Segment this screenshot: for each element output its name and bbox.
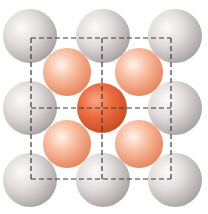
grey-atom [148,9,202,63]
grey-atom [148,153,202,207]
grey-atom [76,9,130,63]
grey-atom [3,9,57,63]
grey-atom [76,153,130,207]
light-orange-atom [43,120,91,168]
light-orange-atom [115,120,163,168]
grey-atom [148,81,202,135]
light-orange-atom [115,48,163,96]
light-orange-atom [43,48,91,96]
crystal-lattice-diagram [0,0,208,214]
grey-atom [3,153,57,207]
